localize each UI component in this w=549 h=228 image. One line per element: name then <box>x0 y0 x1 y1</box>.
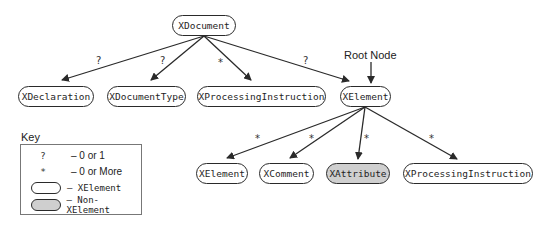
node-xattribute: XAttribute <box>326 163 390 184</box>
multiplicity-label: * <box>255 134 260 144</box>
legend-row: – XElement <box>21 181 141 195</box>
node-xprocessinginstruction-top: XProcessingInstruction <box>197 86 326 107</box>
multiplicity-label: * <box>364 134 369 144</box>
legend-desc: – 0 or More <box>71 166 122 177</box>
legend-row: * – 0 or More <box>21 164 141 178</box>
question-mark-symbol: ? <box>21 150 65 161</box>
gray-pill-icon <box>31 199 61 211</box>
legend-row: – Non-XElement <box>21 198 141 212</box>
node-xdocumenttype: XDocumentType <box>107 86 186 107</box>
multiplicity-label: ? <box>160 56 165 66</box>
node-xprocessinginstruction-child: XProcessingInstruction <box>403 163 533 184</box>
multiplicity-label: ? <box>96 56 101 66</box>
legend-box: ? – 0 or 1 * – 0 or More – XElement – No… <box>20 144 142 215</box>
multiplicity-label: * <box>309 134 314 144</box>
key-title: Key <box>21 131 40 143</box>
white-pill-icon <box>31 182 61 194</box>
node-xcomment: XComment <box>259 163 314 184</box>
xml-tree-diagram: Root Node XDocument XDeclaration XDocume… <box>0 0 549 228</box>
legend-desc: – 0 or 1 <box>71 150 105 161</box>
node-xelement-child: XElement <box>196 163 248 184</box>
root-node-label: Root Node <box>344 49 397 61</box>
node-xdeclaration: XDeclaration <box>18 86 94 107</box>
legend-desc: – Non-XElement <box>67 195 142 215</box>
multiplicity-label: * <box>429 134 434 144</box>
asterisk-symbol: * <box>21 166 65 177</box>
legend-row: ? – 0 or 1 <box>21 148 141 162</box>
multiplicity-label: * <box>218 58 223 68</box>
legend-desc: – XElement <box>67 183 121 193</box>
node-xdocument: XDocument <box>172 15 236 36</box>
multiplicity-label: ? <box>303 56 308 66</box>
node-xelement-root: XElement <box>340 86 391 107</box>
